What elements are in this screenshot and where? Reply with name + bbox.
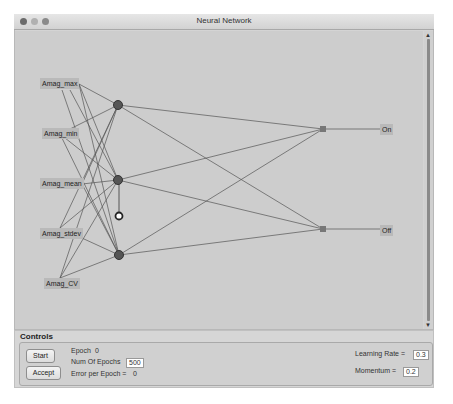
num-epochs-label: Num Of Epochs (71, 358, 120, 365)
hidden-node-2 (114, 176, 123, 185)
input-label-amag-max[interactable]: Amag_max (40, 78, 79, 89)
epoch-value: 0 (95, 347, 99, 354)
input-label-amag-cv[interactable]: Amag_CV (44, 278, 80, 289)
connections (60, 84, 380, 278)
accept-button[interactable]: Accept (26, 366, 61, 380)
start-button[interactable]: Start (26, 349, 55, 363)
momentum-label: Momentum = (355, 367, 396, 374)
output-node-2 (320, 226, 326, 232)
momentum-input[interactable]: 0.2 (403, 367, 419, 377)
num-epochs-input[interactable]: 500 (126, 358, 144, 368)
error-per-epoch-label: Error per Epoch = (71, 370, 126, 377)
output-label-off[interactable]: Off (380, 225, 393, 236)
learning-rate-label: Learning Rate = (355, 350, 405, 357)
bias-node (116, 213, 123, 220)
hidden-node-3 (115, 251, 124, 260)
output-label-on[interactable]: On (380, 124, 393, 135)
scroll-up-icon[interactable]: ▲ (425, 32, 431, 38)
input-label-amag-mean[interactable]: Amag_mean (40, 178, 84, 189)
learning-rate-input[interactable]: 0.3 (413, 350, 429, 360)
epoch-label: Epoch (71, 347, 91, 354)
input-label-amag-stdev[interactable]: Amag_stdev (40, 228, 83, 239)
controls-title: Controls (20, 332, 53, 341)
scroll-down-icon[interactable]: ▼ (425, 322, 431, 328)
scroll-thumb[interactable] (427, 39, 430, 321)
error-per-epoch-value: 0 (133, 370, 137, 377)
input-label-amag-min[interactable]: Amag_min (42, 128, 79, 139)
vertical-scrollbar[interactable]: ▲ ▼ (424, 31, 433, 329)
output-node-1 (320, 126, 326, 132)
hidden-node-1 (114, 101, 123, 110)
